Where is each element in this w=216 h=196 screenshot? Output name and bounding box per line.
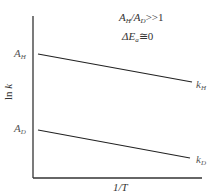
ah-intercept-label: AH	[14, 47, 26, 61]
note1-mid: /A	[131, 11, 141, 23]
plot-area	[0, 0, 216, 196]
ad-intercept-label: AD	[14, 122, 26, 136]
ratio-annotation: AH/AD>>1	[119, 11, 164, 25]
ad-sub: D	[21, 128, 26, 136]
ylabel-prefix: ln	[2, 89, 14, 100]
kh-sub: H	[201, 84, 206, 92]
x-axis-label: 1/T	[113, 181, 128, 193]
kd-sub: D	[201, 159, 206, 167]
ad-main: A	[14, 122, 21, 134]
note1-a: A	[119, 11, 126, 23]
energy-annotation: ΔEa≅0	[122, 30, 153, 44]
xlabel-text: 1/T	[113, 181, 128, 193]
ah-sub: H	[21, 53, 26, 61]
note1-rest: >>1	[146, 11, 164, 23]
kd-label: kD	[196, 153, 206, 167]
kh-label: kH	[196, 78, 206, 92]
ylabel-var: k	[2, 84, 14, 89]
ah-main: A	[14, 47, 21, 59]
y-axis-label: ln k	[2, 84, 14, 100]
kh-line	[38, 54, 192, 82]
note2-a: ΔE	[122, 30, 135, 42]
kd-line	[38, 130, 190, 158]
note2-rest: ≅0	[139, 30, 154, 42]
